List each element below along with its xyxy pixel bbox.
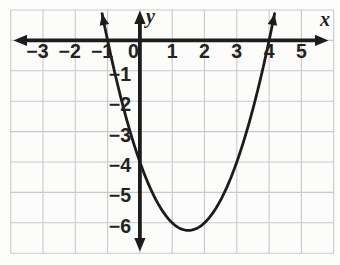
x-axis-label: x xyxy=(319,8,330,30)
x-tick-label: 5 xyxy=(296,40,307,62)
y-tick-label: −6 xyxy=(109,215,131,237)
y-axis-label: y xyxy=(144,5,155,28)
y-tick-label: −1 xyxy=(109,63,131,85)
y-tick-label: −2 xyxy=(109,93,131,115)
x-tick-label: 0 xyxy=(128,40,139,62)
x-tick-label: 1 xyxy=(167,40,178,62)
x-tick-label: −2 xyxy=(59,40,81,62)
graph-canvas: −3−2−1012345−1−2−3−4−5−6yx xyxy=(0,0,340,265)
parabola-graph-figure: −3−2−1012345−1−2−3−4−5−6yx xyxy=(0,0,340,265)
x-tick-label: −3 xyxy=(26,40,48,62)
x-tick-label: 3 xyxy=(231,40,242,62)
y-tick-label: −4 xyxy=(109,154,131,176)
y-tick-label: −5 xyxy=(109,184,131,206)
x-tick-label: 2 xyxy=(199,40,210,62)
y-tick-label: −3 xyxy=(109,124,131,146)
x-tick-label: 4 xyxy=(264,40,275,62)
x-tick-label: −1 xyxy=(91,40,113,62)
